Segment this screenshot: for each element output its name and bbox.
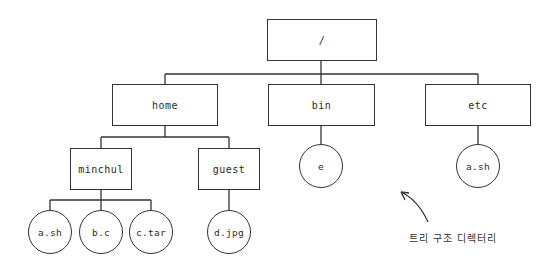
directory-tree-diagram: / home bin etc minchul guest a.sh b.c c.… [0, 0, 560, 273]
file-label: a.sh [466, 161, 490, 172]
file-node-c-tar: c.tar [129, 210, 173, 254]
guest-label: guest [213, 164, 246, 175]
minchul-label: minchul [78, 164, 124, 175]
root-label: / [319, 35, 326, 46]
file-node-etc-a-sh: a.sh [456, 144, 500, 188]
file-label: a.sh [38, 227, 62, 238]
tree-structure-annotation: 트리 구조 디렉터리 [409, 230, 497, 245]
file-node-a-sh: a.sh [28, 210, 72, 254]
bin-label: bin [312, 100, 332, 111]
guest-directory-node: guest [198, 148, 260, 190]
root-directory-node: / [267, 19, 377, 61]
file-node-e: e [299, 144, 343, 188]
home-directory-node: home [112, 84, 218, 126]
file-label: b.c [92, 227, 110, 238]
file-node-b-c: b.c [79, 210, 123, 254]
file-label: c.tar [136, 227, 166, 238]
file-label: d.jpg [214, 227, 244, 238]
file-label: e [318, 161, 324, 172]
file-node-d-jpg: d.jpg [207, 210, 251, 254]
etc-directory-node: etc [425, 84, 531, 126]
home-label: home [152, 100, 178, 111]
bin-directory-node: bin [268, 84, 375, 126]
etc-label: etc [468, 100, 488, 111]
minchul-directory-node: minchul [70, 148, 132, 190]
